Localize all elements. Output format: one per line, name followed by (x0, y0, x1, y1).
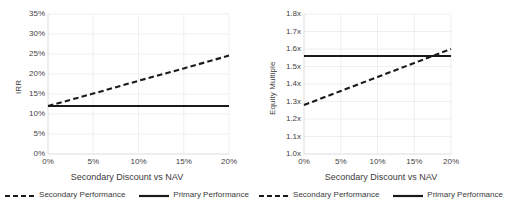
y-tick-label: 15% (29, 90, 45, 98)
legend-label-primary: Primary Performance (173, 190, 249, 199)
y-tick-label: 5% (33, 130, 45, 138)
y-tick-label: 1.7x (286, 28, 301, 36)
irr-panel: IRR Secondary Discount vs NAV Secondary … (0, 0, 254, 205)
x-tick-label: 0% (28, 158, 68, 166)
y-tick-label: 35% (29, 10, 45, 18)
two-panel-line-chart-figure: IRR Secondary Discount vs NAV Secondary … (0, 0, 508, 205)
x-tick-label: 15% (394, 158, 434, 166)
y-tick-label: 1.4x (286, 80, 301, 88)
x-tick-label: 10% (119, 158, 159, 166)
x-axis-title-equity-multiple: Secondary Discount vs NAV (254, 172, 508, 182)
legend-label-secondary: Secondary Performance (293, 190, 379, 199)
y-tick-label: 30% (29, 30, 45, 38)
legend-irr: Secondary Performance Primary Performanc… (0, 190, 254, 199)
legend-item-secondary: Secondary Performance (259, 190, 379, 199)
legend-item-primary: Primary Performance (393, 190, 503, 199)
legend-equity-multiple: Secondary Performance Primary Performanc… (254, 190, 508, 199)
y-tick-label: 20% (29, 70, 45, 78)
dashed-line-swatch-icon (259, 193, 289, 196)
y-tick-label: 1.8x (286, 10, 301, 18)
solid-line-swatch-icon (139, 193, 169, 196)
dashed-line-swatch-icon (5, 193, 35, 196)
x-tick-label: 0% (284, 158, 324, 166)
y-tick-label: 10% (29, 110, 45, 118)
y-tick-label: 1.5x (286, 63, 301, 71)
x-tick-label: 20% (209, 158, 249, 166)
x-axis-title-irr: Secondary Discount vs NAV (0, 172, 254, 182)
legend-label-secondary: Secondary Performance (39, 190, 125, 199)
y-tick-label: 25% (29, 50, 45, 58)
y-tick-label: 1.1x (286, 133, 301, 141)
legend-item-primary: Primary Performance (139, 190, 249, 199)
legend-item-secondary: Secondary Performance (5, 190, 125, 199)
solid-line-swatch-icon (393, 193, 423, 196)
x-tick-label: 20% (431, 158, 471, 166)
x-tick-label: 15% (164, 158, 204, 166)
x-tick-label: 5% (73, 158, 113, 166)
y-tick-label: 1.3x (286, 98, 301, 106)
equity-multiple-panel: Equity Multiple Secondary Discount vs NA… (254, 0, 508, 205)
y-tick-label: 1.2x (286, 115, 301, 123)
legend-label-primary: Primary Performance (427, 190, 503, 199)
x-tick-label: 10% (358, 158, 398, 166)
y-tick-label: 1.6x (286, 45, 301, 53)
x-tick-label: 5% (321, 158, 361, 166)
